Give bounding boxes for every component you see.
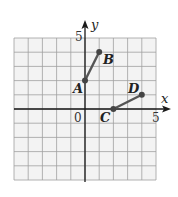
point-a-label: A <box>71 81 83 96</box>
point-c <box>110 106 116 112</box>
point-d-label: D <box>127 81 140 96</box>
origin-label: 0 <box>74 111 82 125</box>
y-axis-label: y <box>90 17 99 32</box>
y-tick-5: 5 <box>75 30 83 44</box>
point-c-label: C <box>100 110 111 125</box>
coordinate-plane: y x 5 5 0 A B C D <box>0 0 178 197</box>
point-d <box>139 92 145 98</box>
point-b <box>96 49 102 55</box>
x-tick-5: 5 <box>152 111 160 125</box>
x-axis-label: x <box>161 91 169 106</box>
point-b-label: B <box>102 52 114 67</box>
